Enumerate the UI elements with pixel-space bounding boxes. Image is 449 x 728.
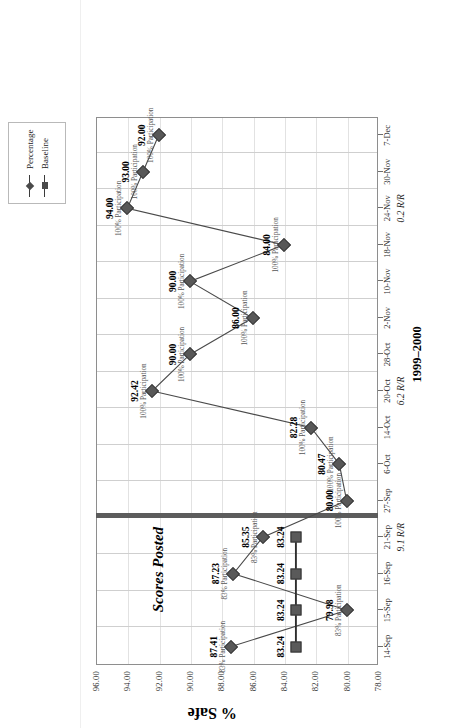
participation-sublabel: 100% Participation <box>299 400 307 455</box>
chart-figure: Percentage Baseline % Safe 96.0094.0092.… <box>0 0 449 728</box>
rotated-figure-wrapper: Percentage Baseline % Safe 96.0094.0092.… <box>0 0 449 728</box>
participation-sublabel: 100% Participation <box>241 290 249 345</box>
percentage-value-label: 87.41 <box>209 636 219 657</box>
baseline-value-label: 83.24 <box>276 636 286 657</box>
percentage-value-label: 80.00 <box>325 490 335 511</box>
percentage-value-label: 90.00 <box>168 344 178 365</box>
baseline-value-label: 83.24 <box>276 526 286 547</box>
baseline-data-point[interactable] <box>290 605 301 616</box>
percentage-value-label: 82.28 <box>289 417 299 438</box>
percentage-value-label: 86.00 <box>231 307 241 328</box>
percentage-value-label: 90.00 <box>168 271 178 292</box>
participation-sublabel: 100% Participation <box>131 144 139 199</box>
participation-sublabel: 83% Participation <box>335 584 343 636</box>
participation-sublabel: 83% Participation <box>221 548 229 600</box>
series-lines <box>0 0 449 728</box>
participation-sublabel: 100% Participation <box>335 473 343 528</box>
participation-sublabel: 100% Participation <box>178 254 186 309</box>
percentage-value-label: 85.35 <box>241 526 251 547</box>
participation-sublabel: 83% Participation <box>219 621 227 673</box>
participation-sublabel: 100% Participation <box>272 217 280 272</box>
percentage-line <box>127 135 347 646</box>
participation-sublabel: 100% Participation <box>147 108 155 163</box>
baseline-data-point[interactable] <box>290 641 301 652</box>
participation-sublabel: 100% Participation <box>140 363 148 418</box>
baseline-value-label: 83.24 <box>276 600 286 621</box>
participation-sublabel: 83% Participation <box>251 511 259 563</box>
percentage-value-label: 92.00 <box>137 125 147 146</box>
percentage-value-label: 94.00 <box>105 198 115 219</box>
percentage-value-label: 79.98 <box>325 600 335 621</box>
baseline-value-label: 83.24 <box>276 563 286 584</box>
percentage-value-label: 84.00 <box>262 234 272 255</box>
percentage-value-label: 87.23 <box>211 563 221 584</box>
participation-sublabel: 100% Participation <box>115 181 123 236</box>
percentage-value-label: 92.42 <box>130 380 140 401</box>
baseline-data-point[interactable] <box>290 568 301 579</box>
percentage-value-label: 80.47 <box>317 453 327 474</box>
percentage-value-label: 93.00 <box>121 161 131 182</box>
participation-sublabel: 100% Participation <box>178 327 186 382</box>
baseline-data-point[interactable] <box>290 532 301 543</box>
participation-sublabel: 100% Participation <box>327 436 335 491</box>
